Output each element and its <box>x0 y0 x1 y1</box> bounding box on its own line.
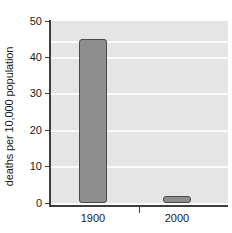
y-tick-label-10: 10 <box>20 161 42 172</box>
y-tick-label-50: 50 <box>20 16 42 27</box>
x-tick-mid <box>139 206 140 213</box>
x-tick-label-1900: 1900 <box>63 212 123 224</box>
gridline-40 <box>51 57 228 59</box>
gridline-10 <box>51 166 228 168</box>
y-tick-0 <box>45 203 49 204</box>
gridline-45 <box>51 41 228 43</box>
y-tick-label-30-wrap: 30 <box>20 88 42 99</box>
y-tick-label-0: 0 <box>20 198 42 209</box>
bar-1900 <box>79 39 107 203</box>
y-tick-label-30: 30 <box>20 88 42 99</box>
y-tick-label-10-wrap: 10 <box>20 161 42 172</box>
y-tick-40 <box>45 57 49 58</box>
y-tick-label-20: 20 <box>20 125 42 136</box>
x-tick-label-2000: 2000 <box>147 212 207 224</box>
gridline-30 <box>51 93 228 95</box>
y-tick-20 <box>45 130 49 131</box>
y-tick-label-40-wrap: 40 <box>20 52 42 63</box>
bar-2000 <box>163 196 191 203</box>
y-tick-label-20-wrap: 20 <box>20 125 42 136</box>
y-tick-50 <box>45 21 49 22</box>
bar-chart: deaths per 10,000 population 50 40 30 20… <box>0 0 232 233</box>
y-tick-label-50-wrap: 50 <box>20 16 42 27</box>
y-tick-10 <box>45 166 49 167</box>
gridline-20 <box>51 130 228 132</box>
y-tick-label-0-wrap: 0 <box>20 198 42 209</box>
y-tick-30 <box>45 93 49 94</box>
plot-area <box>51 21 228 205</box>
y-tick-label-40: 40 <box>20 52 42 63</box>
y-axis-line <box>49 20 51 206</box>
y-axis-title: deaths per 10,000 population <box>0 0 18 233</box>
